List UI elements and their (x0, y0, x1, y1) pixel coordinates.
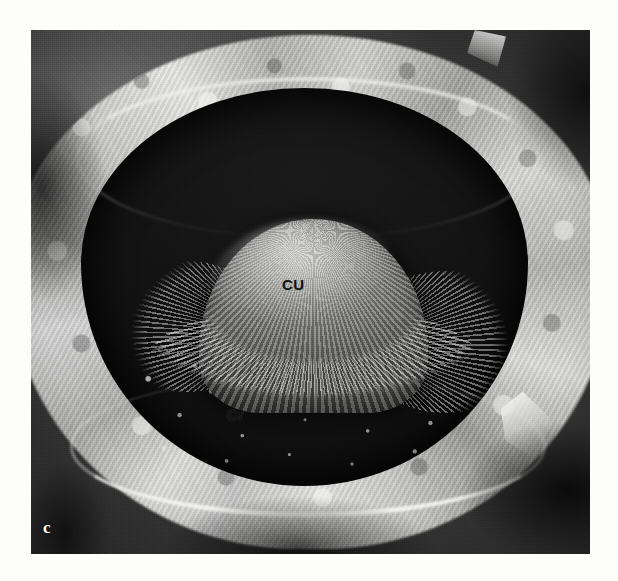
ciliary-fringe-left (104, 261, 272, 392)
ciliary-fringe-right (355, 271, 534, 412)
figure-panel: CU Cr c (0, 0, 618, 581)
bone-shard-top-right (467, 30, 506, 67)
panel-letter-label: c (43, 519, 51, 536)
film-grain-overlay (31, 30, 590, 554)
upper-inner-ridge (76, 77, 540, 238)
background-tissue-matrix (31, 30, 590, 554)
bone-shard-right (501, 392, 551, 460)
ciliary-fringe-base (137, 302, 489, 449)
annotation-label-crista: Cr (227, 407, 245, 422)
cupula-highlight (204, 219, 422, 324)
annotation-label-cupula: CU (282, 277, 305, 292)
sem-micrograph-image (31, 30, 590, 554)
bony-rim-ring (31, 35, 590, 549)
plate-vignette (31, 30, 590, 554)
outer-dark-crevices (31, 30, 590, 554)
cupula-striations (199, 219, 428, 413)
ampullary-floor-speckle (109, 344, 500, 501)
cupula-dome (199, 219, 428, 413)
lower-inner-ridge (70, 376, 546, 517)
bony-rim-texture (31, 35, 590, 549)
